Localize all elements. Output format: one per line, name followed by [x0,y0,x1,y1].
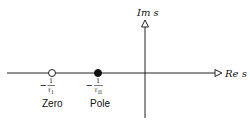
zero-marker-icon [49,70,56,77]
pole-name-label: Pole [90,98,110,109]
pole-value-sign: − [86,79,92,91]
zero-name-label: Zero [42,98,63,109]
pole-marker-icon [95,70,102,77]
s-plane-diagram: Re s Im s − 1 τ I Zero − 1 τ II Pole [0,0,250,124]
zero-value-sign: − [40,79,46,91]
imaginary-axis-arrow-icon [142,20,149,27]
zero-value-subscript: I [52,89,54,95]
imaginary-axis-label: Im s [136,7,159,18]
real-axis-arrow-icon [215,70,222,77]
pole-value-subscript: II [98,89,102,95]
zero-value-numerator: 1 [49,77,53,85]
pole-value-label: − 1 τ II [86,77,103,95]
real-axis-label: Re s [224,68,247,79]
zero-value-label: − 1 τ I [40,77,55,95]
pole-value-numerator: 1 [96,77,100,85]
